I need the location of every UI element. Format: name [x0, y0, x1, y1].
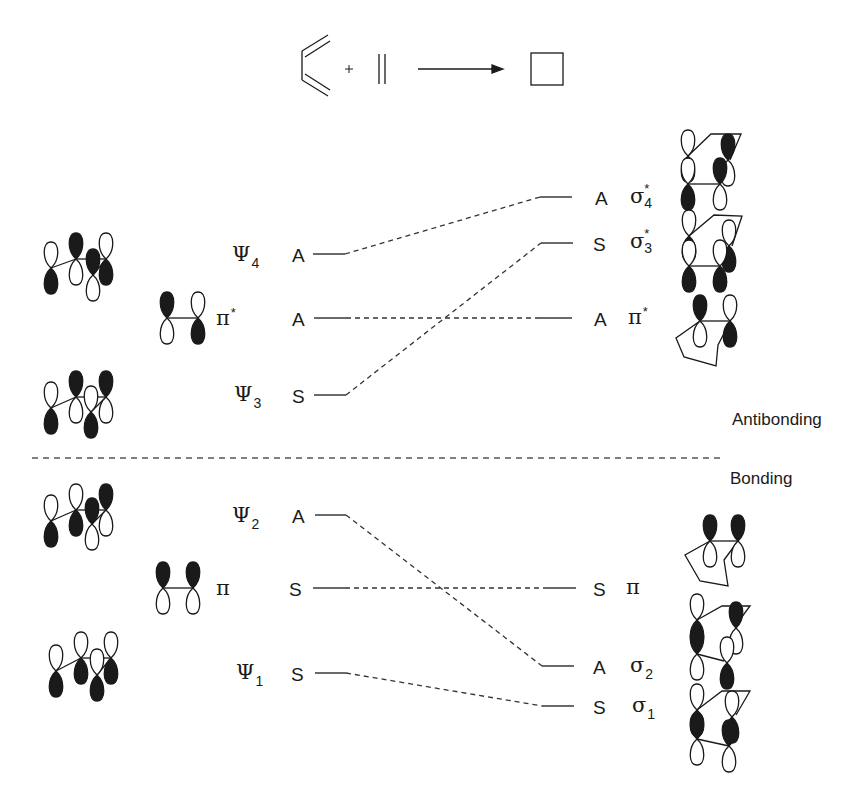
pi-orbital-icon — [156, 562, 200, 614]
sigma3-star-symmetry: S — [593, 235, 606, 254]
pi-left-label: π — [216, 578, 230, 599]
butadiene-structure — [302, 35, 330, 96]
reaction-scheme — [302, 35, 563, 96]
sigma1-label: σ1 — [632, 695, 655, 716]
pi-left-symmetry: S — [289, 580, 302, 599]
right-energy-levels — [540, 197, 576, 706]
sigma3-star-label: σ*3 — [630, 231, 656, 252]
sigma4-star-orbital-icon — [681, 130, 741, 210]
sigma2-label: σ2 — [630, 655, 653, 676]
psi2-orbital-icon — [44, 484, 113, 550]
antibonding-label: Antibonding — [732, 411, 822, 428]
psi3-label: Ψ3 — [234, 384, 261, 405]
reaction-arrow — [418, 65, 503, 73]
psi2-symmetry: A — [292, 507, 305, 526]
pi-star-left-label: π* — [216, 308, 236, 329]
pi-star-product-orbital-icon — [676, 295, 737, 366]
sigma4-star-label: σ*4 — [630, 186, 656, 207]
psi2-label: Ψ2 — [232, 505, 259, 526]
psi1-symmetry: S — [291, 665, 304, 684]
sigma1-orbital-icon — [690, 684, 750, 772]
psi1-orbital-icon — [49, 632, 118, 701]
pi-right-label: π — [626, 577, 640, 598]
pi-star-right-label: π* — [628, 307, 648, 328]
sigma4-star-symmetry: A — [595, 189, 608, 208]
bonding-label: Bonding — [730, 470, 792, 487]
correlation-lines — [345, 197, 544, 706]
psi1-label: Ψ1 — [236, 662, 263, 683]
sigma2-orbital-icon — [690, 594, 750, 689]
psi3-orbital-icon — [44, 371, 113, 438]
psi3-symmetry: S — [292, 387, 305, 406]
cyclobutane-product — [531, 53, 563, 85]
pi-right-symmetry: S — [593, 580, 606, 599]
correlation-diagram — [0, 0, 858, 795]
pi-star-left-symmetry: A — [292, 310, 305, 329]
plus-sign — [345, 65, 353, 73]
psi4-label: Ψ4 — [232, 244, 259, 265]
sigma1-symmetry: S — [593, 698, 606, 717]
pi-product-orbital-icon — [685, 515, 745, 586]
ethylene-structure — [379, 54, 385, 84]
left-energy-levels — [313, 254, 346, 673]
sigma3-star-orbital-icon — [682, 210, 742, 292]
pi-star-orbital-icon — [160, 292, 205, 344]
psi4-orbital-icon — [44, 233, 113, 301]
sigma2-symmetry: A — [593, 658, 606, 677]
psi4-symmetry: A — [292, 246, 305, 265]
pi-star-right-symmetry: A — [594, 310, 607, 329]
